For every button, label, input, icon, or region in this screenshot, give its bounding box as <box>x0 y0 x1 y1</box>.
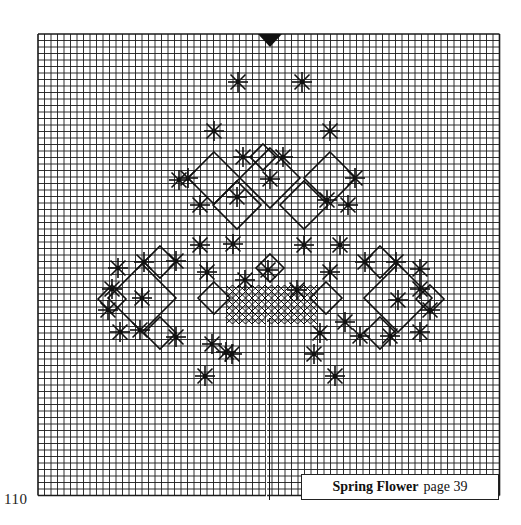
needlepoint-chart <box>0 0 521 525</box>
caption-page-reference: page 39 <box>424 479 468 495</box>
page-number: 110 <box>4 491 27 508</box>
caption-title: Spring Flower <box>333 479 419 495</box>
caption-box: Spring Flower page 39 <box>301 474 499 500</box>
flower-motif <box>98 72 444 500</box>
